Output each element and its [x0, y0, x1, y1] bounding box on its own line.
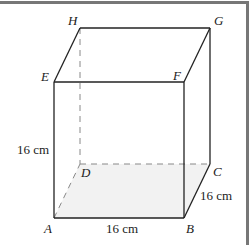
vertex-label-h: H	[67, 13, 78, 28]
vertex-label-b: B	[186, 221, 194, 236]
vertex-label-f: F	[172, 68, 182, 83]
vertex-label-d: D	[80, 165, 91, 180]
cube-diagram: H G E F D C A B 16 cm 16 cm 16 cm	[0, 0, 252, 245]
edge-fg	[184, 28, 210, 82]
dimension-label-width: 16 cm	[106, 221, 138, 236]
vertex-label-g: G	[214, 13, 224, 28]
dimension-label-height: 16 cm	[17, 142, 49, 157]
vertex-label-c: C	[213, 164, 222, 179]
dimension-label-depth: 16 cm	[200, 188, 232, 203]
shaded-face-abcd	[54, 164, 210, 218]
vertex-label-e: E	[40, 69, 49, 84]
vertex-label-a: A	[43, 221, 52, 236]
edge-eh	[54, 28, 80, 82]
